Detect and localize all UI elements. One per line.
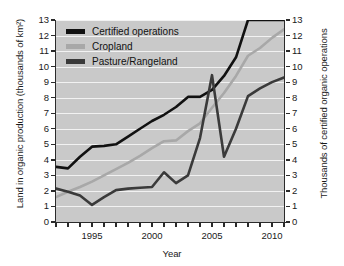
x-axis-tick-label: 2005: [192, 231, 232, 241]
y-axis-tick-mark: [286, 19, 290, 20]
y-axis-tick-label: 2: [292, 186, 307, 196]
x-axis-tick-mark: [223, 223, 224, 227]
y-axis-tick-label: 11: [34, 46, 49, 56]
y-axis-tick-label: 4: [292, 155, 307, 165]
legend-item[interactable]: Certified operations: [66, 24, 179, 39]
y-axis-tick-mark: [51, 50, 55, 51]
y-axis-tick-label: 5: [34, 139, 49, 149]
y-axis-tick-label: 10: [292, 62, 307, 72]
legend-item[interactable]: Cropland: [66, 39, 179, 54]
legend-swatch-icon: [66, 59, 85, 64]
y-axis-tick-label: 13: [292, 15, 307, 25]
chart-legend: Certified operationsCroplandPasture/Rang…: [66, 24, 179, 69]
y-axis-tick-mark: [286, 113, 290, 114]
y-axis-tick-mark: [286, 175, 290, 176]
x-axis-tick-mark: [187, 223, 188, 227]
y-axis-tick-label: 0: [292, 217, 307, 227]
y-axis-tick-mark: [286, 221, 290, 222]
y-axis-tick-mark: [51, 19, 55, 20]
y-axis-tick-label: 10: [34, 62, 49, 72]
y-axis-tick-label: 9: [292, 77, 307, 87]
y-axis-tick-label: 3: [34, 170, 49, 180]
y-axis-tick-mark: [51, 66, 55, 67]
y-axis-tick-mark: [51, 159, 55, 160]
legend-label: Cropland: [92, 42, 133, 52]
y-axis-tick-label: 2: [34, 186, 49, 196]
y-axis-tick-mark: [286, 128, 290, 129]
y-axis-tick-mark: [51, 82, 55, 83]
legend-swatch-icon: [66, 44, 85, 49]
y-axis-tick-label: 13: [34, 15, 49, 25]
x-axis-tick-mark: [283, 223, 284, 227]
y-axis-tick-label: 6: [292, 124, 307, 134]
y-axis-tick-mark: [51, 144, 55, 145]
y-axis-tick-label: 12: [34, 31, 49, 41]
y-axis-tick-label: 1: [292, 201, 307, 211]
x-axis-tick-mark: [139, 223, 140, 227]
y-axis-tick-mark: [51, 113, 55, 114]
x-axis-tick-mark: [115, 223, 116, 227]
x-axis-tick-label: 2010: [252, 231, 292, 241]
y-axis-tick-label: 12: [292, 31, 307, 41]
y-axis-tick-mark: [286, 50, 290, 51]
x-axis-tick-mark: [199, 223, 200, 227]
y-axis-tick-mark: [286, 206, 290, 207]
x-axis-spine: [55, 222, 286, 223]
x-axis-tick-mark: [103, 223, 104, 227]
chart-figure: Land in organic production (thousands of…: [0, 0, 344, 266]
x-axis-tick-mark: [151, 223, 152, 227]
y-axis-tick-mark: [286, 66, 290, 67]
y-axis-tick-label: 8: [34, 93, 49, 103]
y-axis-right-title: Thousands of certified organic operation…: [318, 9, 329, 219]
y-axis-tick-mark: [51, 35, 55, 36]
x-axis-tick-mark: [235, 223, 236, 227]
legend-label: Certified operations: [92, 27, 179, 37]
y-axis-tick-label: 3: [292, 170, 307, 180]
y-axis-tick-mark: [51, 190, 55, 191]
y-axis-tick-label: 0: [34, 217, 49, 227]
y-axis-left-spine: [55, 20, 56, 223]
y-axis-tick-label: 6: [34, 124, 49, 134]
y-axis-tick-mark: [286, 190, 290, 191]
x-axis-tick-mark: [175, 223, 176, 227]
x-axis-tick-mark: [91, 223, 92, 227]
y-axis-tick-mark: [286, 97, 290, 98]
legend-label: Pasture/Rangeland: [92, 57, 178, 67]
y-axis-tick-label: 11: [292, 46, 307, 56]
x-axis-tick-mark: [271, 223, 272, 227]
y-axis-tick-mark: [286, 159, 290, 160]
y-axis-tick-label: 8: [292, 93, 307, 103]
x-axis-tick-mark: [163, 223, 164, 227]
x-axis-tick-mark: [211, 223, 212, 227]
x-axis-tick-label: 1995: [72, 231, 112, 241]
x-axis-tick-mark: [55, 223, 56, 227]
x-axis-tick-mark: [67, 223, 68, 227]
y-axis-left-title: Land in organic production (thousands of…: [14, 9, 25, 219]
y-axis-tick-mark: [286, 144, 290, 145]
y-axis-tick-mark: [286, 82, 290, 83]
y-axis-tick-label: 9: [34, 77, 49, 87]
x-axis-tick-mark: [127, 223, 128, 227]
y-axis-tick-mark: [51, 128, 55, 129]
y-axis-tick-label: 7: [34, 108, 49, 118]
y-axis-tick-mark: [51, 206, 55, 207]
x-axis-tick-mark: [259, 223, 260, 227]
legend-item[interactable]: Pasture/Rangeland: [66, 54, 179, 69]
y-axis-tick-mark: [51, 97, 55, 98]
y-axis-tick-mark: [51, 175, 55, 176]
x-axis-tick-mark: [247, 223, 248, 227]
y-axis-tick-label: 7: [292, 108, 307, 118]
x-axis-title: Year: [0, 248, 344, 259]
y-axis-tick-label: 4: [34, 155, 49, 165]
legend-swatch-icon: [66, 29, 85, 34]
y-axis-tick-label: 5: [292, 139, 307, 149]
y-axis-tick-label: 1: [34, 201, 49, 211]
x-axis-tick-label: 2000: [132, 231, 172, 241]
x-axis-tick-mark: [79, 223, 80, 227]
y-axis-tick-mark: [286, 35, 290, 36]
